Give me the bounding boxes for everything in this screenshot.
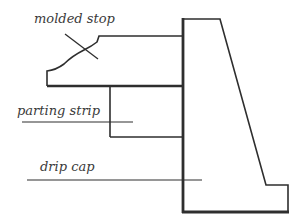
diagram-canvas: molded stop parting strip drip cap	[0, 0, 298, 224]
parting-strip-label: parting strip	[17, 104, 100, 117]
molded-stop-shape	[47, 36, 183, 86]
molded-stop-leader	[65, 34, 98, 59]
drip-cap-label: drip cap	[40, 160, 95, 173]
drip-cap-shape	[183, 19, 288, 212]
molded-stop-label: molded stop	[34, 12, 115, 25]
